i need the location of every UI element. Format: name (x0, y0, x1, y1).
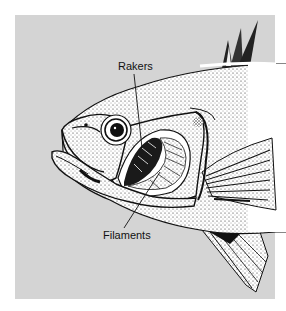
fish-illustration (0, 0, 286, 311)
label-rakers: Rakers (118, 60, 153, 72)
eye (101, 115, 131, 145)
pelvic-fin (202, 230, 268, 292)
label-filaments: Filaments (103, 229, 151, 241)
